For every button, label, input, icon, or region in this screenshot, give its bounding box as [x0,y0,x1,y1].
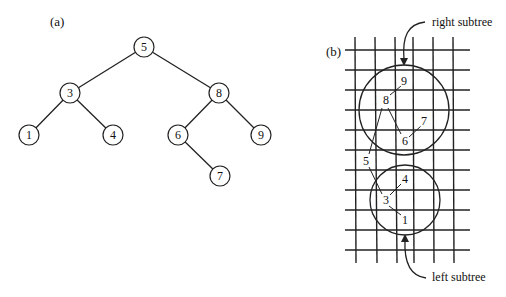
point-label: 7 [421,114,427,128]
left-subtree-label: left subtree [432,270,486,284]
point-label: 9 [401,74,407,88]
tree-node-label: 1 [26,128,32,142]
right-subtree-arrow [404,22,425,60]
left-subtree-arrow [405,240,426,278]
point-label: 8 [383,93,389,107]
panel-b-label: (b) [326,44,341,59]
grid [345,37,470,263]
figure: (a) 5 3 8 1 4 6 9 7 (b) [0,0,506,297]
point-label: 5 [363,154,369,168]
point-label: 6 [402,134,408,148]
point-label: 3 [383,193,389,207]
tree-node-label: 3 [67,86,73,100]
point-label: 4 [402,172,408,186]
right-subtree-label: right subtree [432,15,492,29]
tree-node-label: 8 [216,86,222,100]
tree-nodes [19,37,271,186]
panel-b: (b) [326,15,492,284]
tree-node-label: 7 [217,169,223,183]
tree-node-label: 6 [175,128,181,142]
point-label: 1 [402,213,408,227]
tree-node-label: 4 [110,128,116,142]
tree-node-label: 9 [258,128,264,142]
panel-a: (a) 5 3 8 1 4 6 9 7 [19,14,271,186]
tree-node-label: 5 [141,40,147,54]
tree-edges [29,47,261,176]
panel-a-label: (a) [50,14,64,29]
